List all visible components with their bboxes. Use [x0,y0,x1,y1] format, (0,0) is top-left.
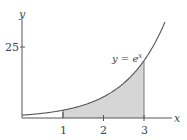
curve-label: y = ex [111,52,142,64]
shaded-region [63,61,144,118]
y-tick-label-25: 25 [5,41,19,54]
x-tick-label-2: 2 [100,124,107,137]
x-axis-label: x [174,112,181,125]
chart: y x 25 1 2 3 y = ex [0,0,187,140]
y-axis-label: y [18,8,26,21]
x-tick-label-1: 1 [60,124,67,137]
x-tick-label-3: 3 [141,124,148,137]
